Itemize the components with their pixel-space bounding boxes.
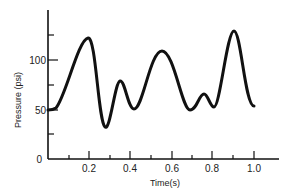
y-ticks: [48, 35, 58, 134]
pressure-time-chart: 0 50 100 0.2 0.4 0.6 0.8 1.0 Time(s) Pre…: [0, 0, 292, 193]
y-tick-label-100: 100: [29, 55, 46, 66]
y-tick-label-50: 50: [35, 105, 47, 116]
x-tick-label-0.2: 0.2: [82, 163, 96, 174]
x-tick-label-0.4: 0.4: [123, 163, 137, 174]
y-axis-title: Pressure (psi): [13, 72, 23, 128]
pressure-curve: [48, 31, 254, 127]
x-axis-title: Time(s): [150, 178, 180, 188]
x-tick-label-0.8: 0.8: [205, 163, 219, 174]
x-tick-label-0.6: 0.6: [165, 163, 179, 174]
x-ticks: [69, 151, 254, 159]
y-tick-label-0: 0: [36, 154, 42, 165]
x-tick-label-1.0: 1.0: [247, 163, 261, 174]
